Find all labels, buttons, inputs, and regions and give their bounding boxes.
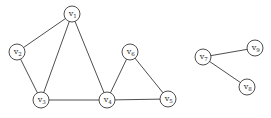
node-v2: v2 bbox=[9, 44, 25, 60]
edge-v1-v3 bbox=[41, 14, 72, 100]
node-v4: v4 bbox=[99, 92, 115, 108]
node-layer: v1v2v3v4v5v6v7v8v9 bbox=[9, 6, 263, 108]
node-v3: v3 bbox=[33, 92, 49, 108]
node-v6: v6 bbox=[122, 44, 138, 60]
node-v7: v7 bbox=[195, 49, 211, 65]
edge-v1-v2 bbox=[17, 14, 72, 52]
node-v9: v9 bbox=[247, 40, 263, 56]
graph-diagram: v1v2v3v4v5v6v7v8v9 bbox=[0, 0, 271, 118]
edge-v4-v5 bbox=[107, 99, 168, 100]
node-v8: v8 bbox=[239, 79, 255, 95]
edge-v6-v5 bbox=[130, 52, 168, 99]
edge-v1-v4 bbox=[72, 14, 107, 100]
node-v5: v5 bbox=[160, 91, 176, 107]
node-v1: v1 bbox=[64, 6, 80, 22]
